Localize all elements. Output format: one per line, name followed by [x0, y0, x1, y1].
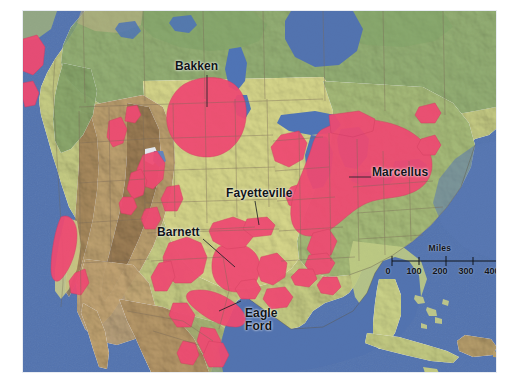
scale-tick-0: 0	[378, 266, 398, 276]
map-label-eagle-ford: Eagle Ford	[245, 307, 278, 332]
map-image: Bakken Marcellus Fayetteville Barnett Ea…	[23, 11, 496, 372]
scale-tick-400: 400	[482, 266, 496, 276]
map-label-marcellus: Marcellus	[372, 166, 428, 179]
scale-bar-ticks: 0 100 200 300 400	[386, 266, 494, 276]
map-label-barnett: Barnett	[157, 226, 200, 239]
scale-tick-100: 100	[404, 266, 424, 276]
map-label-fayetteville: Fayetteville	[226, 187, 293, 200]
figure-page: Bakken Marcellus Fayetteville Barnett Ea…	[0, 0, 509, 391]
scale-bar: Miles 0 100 200 300 400	[386, 243, 494, 283]
caption-strip	[0, 0, 509, 11]
map-label-bakken: Bakken	[175, 60, 218, 73]
scale-tick-300: 300	[456, 266, 476, 276]
scale-bar-units: Miles	[386, 243, 494, 253]
scale-tick-200: 200	[430, 266, 450, 276]
